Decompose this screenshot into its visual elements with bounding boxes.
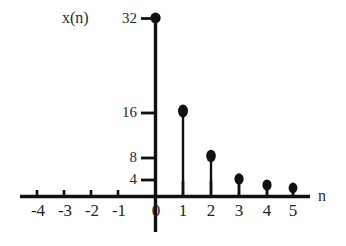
y-tick-label-4: 4 [113, 172, 137, 187]
data-point-n0 [150, 13, 160, 24]
data-point-n3 [234, 173, 243, 185]
y-tick-label-16: 16 [113, 105, 137, 120]
x-tick-label-neg4: -4 [28, 202, 48, 219]
x-tick-label-4: 4 [257, 202, 277, 219]
y-tick-label-32: 32 [113, 11, 137, 26]
chart-canvas: x(n) n 32 16 8 4 -4 -3 -2 -1 0 1 2 3 4 5 [0, 0, 346, 246]
data-point-n2 [206, 150, 216, 162]
x-tick-label-1: 1 [173, 202, 193, 219]
x-tick-label-0: 0 [146, 202, 166, 219]
data-point-n4 [262, 179, 271, 190]
data-point-n1 [178, 105, 188, 118]
x-tick-label-neg1: -1 [109, 202, 129, 219]
x-tick-label-neg3: -3 [55, 202, 75, 219]
y-axis-label: x(n) [62, 10, 89, 26]
x-axis-label: n [318, 188, 326, 204]
x-tick-label-neg2: -2 [82, 202, 102, 219]
x-tick-label-5: 5 [283, 202, 303, 219]
data-point-n5 [289, 183, 298, 194]
x-tick-label-3: 3 [229, 202, 249, 219]
y-tick-label-8: 8 [113, 150, 137, 165]
x-tick-label-2: 2 [201, 202, 221, 219]
